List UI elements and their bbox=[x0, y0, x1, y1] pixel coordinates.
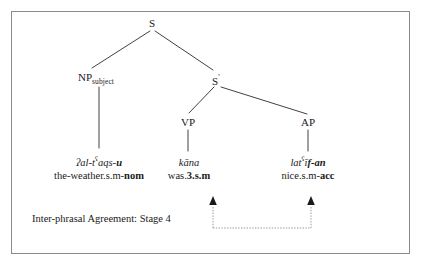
node-vp-label: VP bbox=[181, 116, 195, 128]
node-np-label: NP bbox=[78, 71, 92, 83]
ap-surface-form: latʕīf-an bbox=[255, 155, 361, 169]
lexical-item-np: ʔal-tʕaqs-u the-weather.s.m-nom bbox=[29, 155, 169, 182]
np-gloss: the-weather.s.m-nom bbox=[29, 169, 169, 182]
np-surface-form: ʔal-tʕaqs-u bbox=[29, 155, 169, 169]
np-gloss-plain: the-weather.s.m- bbox=[54, 170, 124, 181]
np-form-prefix: ʔal-t bbox=[76, 157, 95, 168]
np-gloss-feature: nom bbox=[124, 170, 144, 181]
agreement-annotation-label: Inter-phrasal Agreement: Stage 4 bbox=[32, 214, 171, 225]
node-s: S bbox=[149, 18, 155, 29]
ap-gloss: nice.s.m-acc bbox=[255, 169, 361, 182]
lexical-item-ap: latʕīf-an nice.s.m-acc bbox=[255, 155, 361, 182]
np-form-mid: aqs- bbox=[98, 157, 116, 168]
node-ap: AP bbox=[301, 117, 315, 128]
vp-gloss-plain: was. bbox=[168, 170, 187, 181]
vp-gloss: was.3.s.m bbox=[150, 169, 228, 182]
ap-gloss-feature: acc bbox=[320, 170, 335, 181]
node-np-subject: NPsubject bbox=[78, 72, 114, 86]
ap-gloss-plain: nice.s.m- bbox=[281, 170, 320, 181]
ap-form-prefix: lat bbox=[290, 157, 301, 168]
node-s-bar: S' bbox=[212, 74, 220, 87]
np-form-suffix: u bbox=[116, 157, 122, 168]
vp-form-prefix: kāna bbox=[179, 157, 199, 168]
vp-gloss-feature: 3.s.m bbox=[187, 170, 210, 181]
node-sbar-prime: ' bbox=[218, 73, 219, 82]
node-s-label: S bbox=[149, 17, 155, 29]
vp-surface-form: kāna bbox=[150, 155, 228, 169]
node-ap-label: AP bbox=[301, 116, 315, 128]
ap-form-suffix: f-an bbox=[308, 157, 326, 168]
node-np-subscript: subject bbox=[92, 77, 114, 86]
lexical-item-vp: kāna was.3.s.m bbox=[150, 155, 228, 182]
node-vp: VP bbox=[181, 117, 195, 128]
figure-canvas: S NPsubject S' VP AP ʔal-tʕaqs-u the-wea… bbox=[0, 0, 421, 266]
